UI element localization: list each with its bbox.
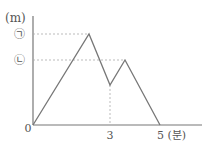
- origin-label: 0: [25, 122, 32, 135]
- level-a-label: ㉠: [14, 28, 25, 41]
- x-tick-3: 3: [107, 129, 114, 142]
- distance-line: [33, 34, 160, 125]
- x-unit-label: 5 (분): [157, 129, 186, 142]
- y-unit-label: (m): [5, 11, 26, 25]
- distance-time-chart: (m) ㉠ ㉡ 0 3 5 (분): [0, 0, 202, 144]
- level-b-label: ㉡: [14, 54, 25, 67]
